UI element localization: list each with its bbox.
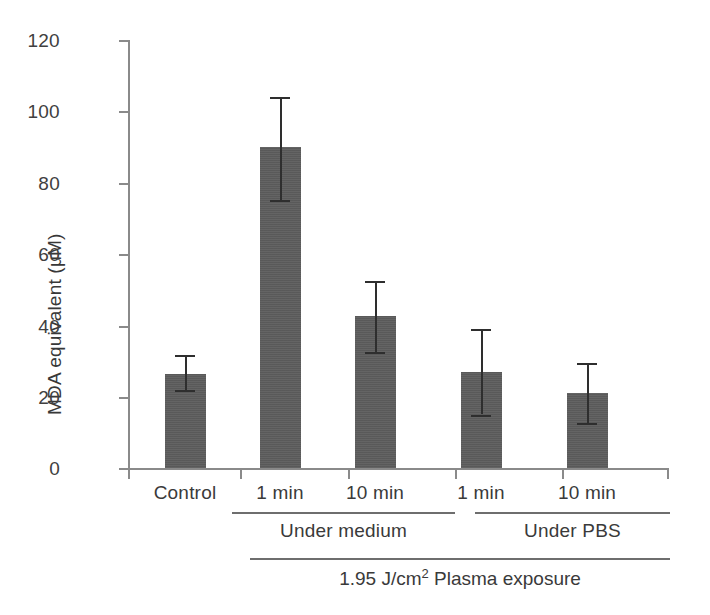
group-label-under-medium: Under medium	[232, 520, 455, 542]
error-bar-cap-upper-medium-1min	[270, 97, 290, 99]
y-tick-0	[119, 468, 128, 470]
x-tick-1	[240, 469, 242, 479]
x-axis-title: 1.95 J/cm2 Plasma exposure	[250, 568, 670, 590]
x-tick-0	[128, 469, 130, 479]
y-tick-60	[119, 254, 128, 256]
error-bar-cap-upper-pbs-10min	[577, 363, 597, 365]
y-tick-label-120: 120	[27, 30, 60, 52]
error-bar-cap-upper-control	[175, 355, 195, 357]
error-bar-stem-medium-10min	[375, 281, 377, 352]
y-tick-label-40: 40	[38, 316, 60, 338]
x-axis-title-dose: 1.95 J/cm	[339, 568, 421, 589]
x-tick-4	[562, 469, 564, 479]
x-category-label-medium-10min: 10 min	[315, 482, 435, 504]
x-axis-spine	[128, 468, 669, 470]
x-tick-5	[667, 469, 669, 479]
error-bar-cap-lower-medium-10min	[365, 352, 385, 354]
x-category-label-pbs-10min: 10 min	[527, 482, 647, 504]
x-axis-title-exponent: 2	[422, 566, 429, 581]
error-bar-cap-lower-pbs-1min	[471, 415, 491, 417]
group-rule-under-pbs	[475, 512, 670, 514]
y-tick-label-80: 80	[38, 173, 60, 195]
error-bar-cap-lower-medium-1min	[270, 200, 290, 202]
error-bar-cap-lower-control	[175, 390, 195, 392]
figure-bar-chart: MDA equivalent (μM) 120 100 80 60 40 20 …	[0, 0, 710, 615]
y-tick-label-100: 100	[27, 101, 60, 123]
error-bar-cap-lower-pbs-10min	[577, 423, 597, 425]
y-tick-label-20: 20	[38, 387, 60, 409]
y-tick-20	[119, 397, 128, 399]
error-bar-cap-upper-medium-10min	[365, 281, 385, 283]
x-axis-title-rest: Plasma exposure	[429, 568, 581, 589]
x-category-label-pbs-1min: 1 min	[421, 482, 541, 504]
error-bar-stem-control	[185, 355, 187, 390]
plot-area: MDA equivalent (μM) 120 100 80 60 40 20 …	[0, 0, 710, 615]
y-axis-spine	[128, 40, 130, 469]
error-bar-stem-pbs-1min	[481, 329, 483, 415]
y-tick-120	[119, 40, 128, 42]
y-tick-label-0: 0	[49, 458, 60, 480]
error-bar-stem-pbs-10min	[587, 363, 589, 424]
error-bar-cap-upper-pbs-1min	[471, 329, 491, 331]
y-tick-80	[119, 183, 128, 185]
error-bar-stem-medium-1min	[280, 97, 282, 201]
y-tick-label-60: 60	[38, 244, 60, 266]
group-label-under-pbs: Under PBS	[475, 520, 670, 542]
group-rule-under-medium	[232, 512, 455, 514]
x-tick-3	[455, 469, 457, 479]
y-tick-40	[119, 326, 128, 328]
y-tick-100	[119, 111, 128, 113]
group-rule-plasma-exposure	[250, 558, 670, 560]
x-tick-2	[348, 469, 350, 479]
